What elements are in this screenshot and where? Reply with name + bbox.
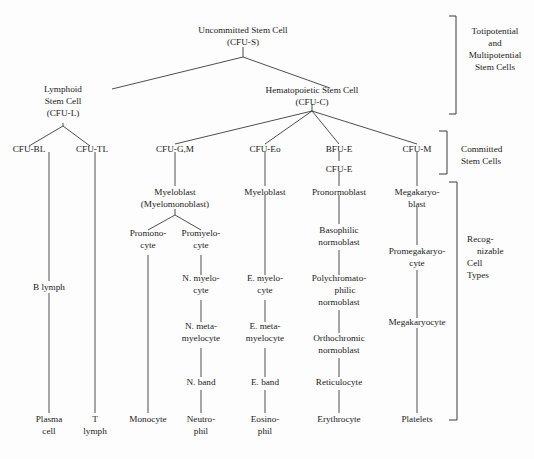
node-e-metamyelocyte-line2: myelocyte (246, 333, 284, 343)
node-hematopoietic-stem-cell-line2: (CFU-C) (295, 97, 328, 107)
group-label-layer: Totipotential and Multipotential Stem Ce… (461, 26, 522, 280)
node-cfu-gm: CFU-G,M (156, 144, 194, 154)
node-promegakaryocyte: Promegakaryo- cyte (389, 246, 446, 268)
edge-lymphoid-to-cfubl (29, 126, 63, 146)
node-plasma-cell-line2: cell (42, 426, 56, 436)
node-megakaryocyte: Megakaryocyte (388, 317, 445, 327)
group-label-recognizable: Recog- nizable Cell Types (467, 234, 504, 280)
edge-cfuc-to-bfue (312, 111, 339, 144)
node-uncommitted-stem-cell: Uncommitted Stem Cell (CFU-S) (198, 25, 288, 47)
node-orthochromic-normoblast-line2: normoblast (318, 345, 360, 355)
node-cfu-eo: CFU-Eo (249, 144, 281, 154)
group-label-recognizable-line3: Cell (467, 258, 483, 268)
node-megakaryoblast: Megakaryo- blast (395, 187, 440, 209)
node-polychromatophilic-normoblast-line2: philic (335, 285, 356, 295)
node-n-myelocyte: N. myelo- cyte (182, 273, 219, 295)
node-plasma-cell-line1: Plasma (36, 414, 63, 424)
node-hematopoietic-stem-cell-line1: Hematopoietic Stem Cell (266, 85, 359, 95)
node-neutrophil: Neutro- phil (187, 414, 216, 436)
group-label-totipotential-line4: Stem Cells (475, 62, 515, 72)
label-layer: Uncommitted Stem Cell (CFU-S) Lymphoid S… (13, 25, 446, 436)
node-e-band: E. band (251, 377, 279, 387)
node-promyelocyte-line1: Promyelo- (182, 228, 221, 238)
node-pronormoblast: Pronormoblast (312, 187, 367, 197)
node-promonocyte-line1: Promono- (130, 228, 167, 238)
bracket-totipotential (449, 16, 456, 114)
node-promyelocyte: Promyelo- cyte (182, 228, 221, 250)
group-label-totipotential: Totipotential and Multipotential Stem Ce… (469, 26, 522, 72)
node-n-metamyelocyte-line1: N. meta- (185, 321, 217, 331)
edge-layer (29, 47, 417, 413)
group-label-totipotential-line3: Multipotential (469, 50, 522, 60)
node-polychromatophilic-normoblast-line1: Polychromato- (312, 273, 367, 283)
node-basophilic-normoblast-line1: Basophilic (319, 225, 358, 235)
node-plasma-cell: Plasma cell (36, 414, 63, 436)
node-e-metamyelocyte: E. meta- myelocyte (246, 321, 284, 343)
node-lymphoid-stem-cell-line1: Lymphoid (44, 84, 82, 94)
node-e-myelocyte-line2: cyte (257, 285, 272, 295)
node-promegakaryocyte-line2: cyte (409, 258, 424, 268)
node-orthochromic-normoblast-line1: Orthochromic (313, 333, 365, 343)
node-myeloblast-myelomonoblast-line1: Myeloblast (154, 187, 196, 197)
node-n-metamyelocyte: N. meta- myelocyte (182, 321, 220, 343)
node-promonocyte: Promono- cyte (130, 228, 167, 250)
node-t-lymph-line1: T (92, 414, 98, 424)
node-cfu-bl: CFU-BL (13, 144, 46, 154)
node-uncommitted-stem-cell-line2: (CFU-S) (227, 37, 259, 47)
edge-cfus-to-hematopoietic (243, 57, 330, 88)
node-promyelocyte-line2: cyte (193, 240, 208, 250)
edge-cfuc-to-cfum (312, 111, 417, 144)
node-promegakaryocyte-line1: Promegakaryo- (389, 246, 446, 256)
node-platelets: Platelets (401, 414, 433, 424)
diagram-canvas: Uncommitted Stem Cell (CFU-S) Lymphoid S… (0, 0, 534, 459)
node-myeloblast-eo: Myeloblast (244, 187, 286, 197)
node-e-metamyelocyte-line1: E. meta- (249, 321, 280, 331)
node-bfu-e: BFU-E (326, 144, 353, 154)
node-polychromatophilic-normoblast: Polychromato- philic normoblast (312, 273, 367, 307)
node-cfu-tl: CFU-TL (76, 144, 109, 154)
node-reticulocyte: Reticulocyte (316, 377, 362, 387)
group-label-totipotential-line2: and (488, 38, 502, 48)
node-uncommitted-stem-cell-line1: Uncommitted Stem Cell (198, 25, 288, 35)
node-basophilic-normoblast-line2: normoblast (318, 237, 360, 247)
node-t-lymph-line2: lymph (83, 426, 107, 436)
node-myeloblast-myelomonoblast-line2: (Myelomonoblast) (141, 199, 209, 209)
node-lymphoid-stem-cell-line2: Stem Cell (45, 96, 82, 106)
node-lymphoid-stem-cell-line3: (CFU-L) (47, 108, 80, 118)
node-n-myelocyte-line1: N. myelo- (182, 273, 219, 283)
group-label-recognizable-line1: Recog- (467, 234, 494, 244)
node-t-lymph: T lymph (83, 414, 107, 436)
group-label-committed-line2: Stem Cells (461, 156, 501, 166)
node-eosinophil-line1: Eosino- (251, 414, 280, 424)
bracket-layer (439, 16, 457, 420)
hematopoiesis-diagram: Uncommitted Stem Cell (CFU-S) Lymphoid S… (0, 0, 534, 459)
node-eosinophil-line2: phil (258, 426, 273, 436)
group-label-committed-line1: Committed (461, 144, 503, 154)
edge-cfuc-to-cfugm (175, 111, 312, 144)
node-eosinophil: Eosino- phil (251, 414, 280, 436)
node-n-myelocyte-line2: cyte (193, 285, 208, 295)
node-e-myelocyte-line1: E. myelo- (247, 273, 283, 283)
node-e-myelocyte: E. myelo- cyte (247, 273, 283, 295)
node-megakaryoblast-line1: Megakaryo- (395, 187, 440, 197)
node-n-band: N. band (186, 377, 215, 387)
node-megakaryoblast-line2: blast (408, 199, 426, 209)
node-promonocyte-line2: cyte (140, 240, 155, 250)
node-cfu-m: CFU-M (402, 144, 431, 154)
bracket-recognizable (449, 182, 457, 420)
node-neutrophil-line1: Neutro- (187, 414, 216, 424)
node-orthochromic-normoblast: Orthochromic normoblast (313, 333, 365, 355)
node-lymphoid-stem-cell: Lymphoid Stem Cell (CFU-L) (44, 84, 82, 118)
node-neutrophil-line2: phil (194, 426, 209, 436)
node-hematopoietic-stem-cell: Hematopoietic Stem Cell (CFU-C) (266, 85, 359, 107)
node-monocyte: Monocyte (129, 414, 166, 424)
node-basophilic-normoblast: Basophilic normoblast (318, 225, 360, 247)
node-myeloblast-myelomonoblast: Myeloblast (Myelomonoblast) (141, 187, 209, 209)
node-polychromatophilic-normoblast-line3: normoblast (318, 297, 360, 307)
edge-cfuc-to-cfueo (265, 111, 312, 144)
group-label-committed: Committed Stem Cells (461, 144, 503, 166)
bracket-committed (439, 131, 447, 174)
group-label-recognizable-line2: nizable (477, 246, 504, 256)
edge-cfus-to-lymphoid (112, 57, 243, 89)
node-cfu-e: CFU-E (326, 164, 353, 174)
